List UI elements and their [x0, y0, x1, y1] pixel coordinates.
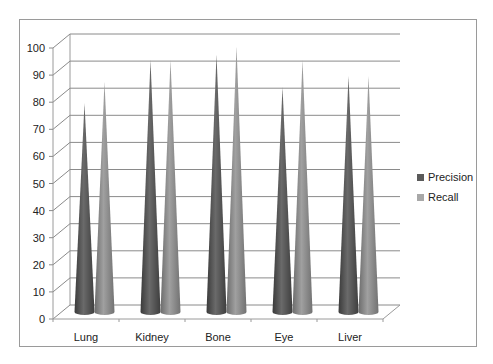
x-category-label: Bone	[205, 331, 231, 343]
x-category-label: Lung	[74, 331, 98, 343]
legend-item-precision: Precision	[417, 167, 473, 187]
y-tick-label: 70	[33, 123, 45, 135]
x-category-label: Liver	[338, 331, 362, 343]
x-category-label: Eye	[275, 331, 294, 343]
legend-swatch-recall	[417, 194, 424, 201]
cone-precision-lung	[75, 103, 95, 315]
cone-recall-bone	[227, 46, 247, 315]
cone-precision-eye	[273, 87, 293, 315]
y-tick-label: 80	[33, 96, 45, 108]
y-tick-label: 40	[33, 205, 45, 217]
y-tick-label: 20	[33, 259, 45, 271]
cone-recall-kidney	[161, 60, 181, 315]
x-category-label: Kidney	[135, 331, 169, 343]
y-tick-label: 10	[33, 286, 45, 298]
x-axis-labels: LungKidneyBoneEyeLiver	[74, 331, 362, 343]
legend-swatch-precision	[417, 174, 424, 181]
y-tick-label: 50	[33, 178, 45, 190]
legend-label-recall: Recall	[428, 191, 459, 203]
y-tick-label: 90	[33, 69, 45, 81]
y-axis: 0102030405060708090100	[27, 42, 53, 325]
legend-label-precision: Precision	[428, 171, 473, 183]
cone-precision-bone	[207, 55, 227, 315]
cone-precision-kidney	[141, 60, 161, 315]
cone-recall-eye	[293, 60, 313, 315]
cone-precision-liver	[339, 76, 359, 315]
legend: Precision Recall	[417, 167, 473, 207]
cone-recall-lung	[95, 82, 115, 315]
cones	[75, 46, 379, 315]
cone-recall-liver	[359, 76, 379, 315]
y-tick-label: 0	[39, 313, 45, 325]
legend-item-recall: Recall	[417, 187, 473, 207]
y-tick-label: 60	[33, 150, 45, 162]
y-tick-label: 100	[27, 42, 45, 54]
y-tick-label: 30	[33, 232, 45, 244]
